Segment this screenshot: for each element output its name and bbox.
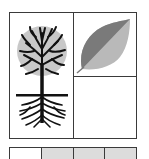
- swatch-4: [105, 148, 136, 159]
- swatch-strip: [9, 147, 137, 159]
- empty-cell: [74, 77, 136, 138]
- tree-with-roots-icon: [10, 13, 73, 138]
- tree-cell: [10, 13, 73, 138]
- figure-canvas: [0, 0, 149, 159]
- leaf-cell: [74, 13, 136, 76]
- swatch-1: [10, 148, 42, 159]
- swatch-3: [74, 148, 106, 159]
- leaf-icon: [74, 13, 136, 76]
- swatch-2: [42, 148, 74, 159]
- illustration-panel: [9, 12, 137, 139]
